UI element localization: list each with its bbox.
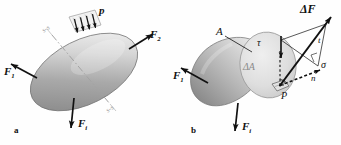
label-normal-stress-sigma: σ xyxy=(321,60,326,70)
panel-label-b: b xyxy=(191,125,196,135)
force-label-F1-b: F1 xyxy=(173,70,184,84)
label-tangential-axis-t: t xyxy=(318,36,321,45)
figure-canvas: F1 F2 Fi p s-s s-s a xyxy=(0,0,341,145)
label-shear-stress-tau: τ xyxy=(257,38,261,48)
label-point-P: P xyxy=(281,91,287,101)
label-section-area-A: A xyxy=(216,26,223,37)
label-element-area-dA: ΔA xyxy=(243,62,255,72)
arrow-Fi-b xyxy=(235,103,238,131)
label-force-increment-dF: ΔF xyxy=(300,3,316,15)
panel-b-graphics xyxy=(0,0,341,145)
force-label-Fi-b: Fi xyxy=(242,121,251,135)
label-normal-axis-n: n xyxy=(311,74,316,83)
